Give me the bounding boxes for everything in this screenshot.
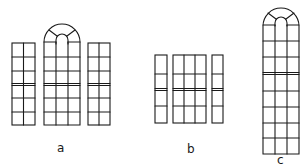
label-a: a (57, 141, 64, 155)
window-a-right (88, 43, 110, 125)
window-b-center (173, 55, 206, 123)
group-c: c (263, 8, 299, 167)
window-a-left (12, 43, 35, 125)
label-c: c (277, 153, 284, 167)
group-a: a (12, 24, 110, 155)
window-a-center-arched (44, 24, 80, 125)
group-b: b (155, 55, 223, 156)
label-b: b (187, 142, 195, 156)
window-b-right (212, 55, 223, 123)
window-c-tall-arched (263, 8, 299, 154)
window-designs-diagram: a b (0, 0, 308, 168)
window-b-left (155, 55, 167, 123)
